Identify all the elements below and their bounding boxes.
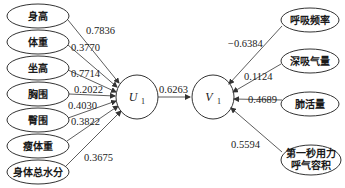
coef-label: 0.7836 bbox=[86, 25, 115, 36]
right-node-label: 呼吸频率 bbox=[290, 14, 330, 26]
right-node-label: 肺活量 bbox=[295, 98, 325, 110]
left-node-label: 臀围 bbox=[28, 115, 48, 126]
coef-label: 0.4689 bbox=[248, 94, 277, 105]
left-node-hip: 臀围 bbox=[7, 108, 69, 132]
left-node-chest: 胸围 bbox=[7, 82, 69, 106]
canonical-correlation-diagram: 身高 体重 坐高 胸围 臀围 瘦体重 身体总水分 0.7836 0.3770 0… bbox=[0, 0, 345, 188]
coef-label: 0.3675 bbox=[84, 152, 113, 163]
left-node-body-water: 身体总水分 bbox=[7, 160, 69, 184]
latent-subscript: 1 bbox=[141, 97, 145, 106]
left-node-sitting-height: 坐高 bbox=[7, 56, 69, 80]
latent-node-u1: U 1 bbox=[116, 75, 158, 119]
latent-node-v1: V 1 bbox=[192, 75, 234, 119]
left-node-label: 身高 bbox=[28, 10, 48, 22]
left-node-label: 坐高 bbox=[28, 62, 48, 74]
right-node-label: 深吸气量 bbox=[290, 55, 330, 67]
right-node-label: 第一秒用力 bbox=[286, 147, 336, 159]
right-node-inspiratory-capacity: 深吸气量 bbox=[281, 49, 339, 73]
coef-label: 0.3822 bbox=[71, 116, 100, 127]
coef-label: 0.1124 bbox=[244, 71, 273, 82]
right-node-label-line2: 呼气容积 bbox=[291, 159, 331, 171]
left-node-label: 身体总水分 bbox=[13, 166, 63, 178]
coef-label: 0.5594 bbox=[231, 139, 261, 150]
coef-label: 0.3770 bbox=[71, 42, 100, 53]
latent-symbol: U bbox=[129, 90, 139, 104]
coef-label: 0.7714 bbox=[71, 68, 101, 79]
right-node-fev1: 第一秒用力 呼气容积 bbox=[281, 145, 341, 175]
left-node-label: 胸围 bbox=[28, 88, 48, 100]
right-node-vital-capacity: 肺活量 bbox=[281, 92, 339, 116]
correlation-label: 0.6263 bbox=[159, 84, 188, 95]
left-node-height: 身高 bbox=[7, 4, 69, 28]
coef-label: 0.2022 bbox=[74, 84, 103, 95]
left-node-label: 体重 bbox=[28, 36, 48, 48]
right-node-respiratory-rate: 呼吸频率 bbox=[281, 8, 339, 32]
left-node-weight: 体重 bbox=[7, 30, 69, 54]
coef-label: 0.4030 bbox=[68, 100, 97, 111]
latent-subscript: 1 bbox=[217, 97, 221, 106]
left-node-label: 瘦体重 bbox=[23, 140, 53, 152]
coef-label: −0.6384 bbox=[228, 38, 264, 49]
left-node-lean-mass: 瘦体重 bbox=[7, 134, 69, 158]
